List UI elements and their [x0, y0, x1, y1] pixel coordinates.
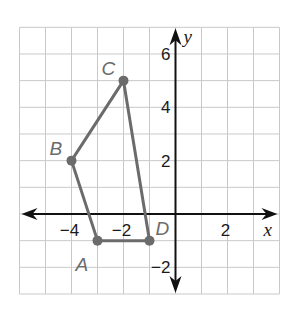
vertex-c-dot [119, 76, 129, 86]
coordinate-plane: x y −4−22642−2 ABCD [0, 0, 288, 313]
vertex-d-label: D [156, 218, 170, 239]
y-tick-label: 4 [161, 98, 170, 117]
x-tick-label: 2 [221, 221, 230, 240]
vertex-d-dot [145, 236, 155, 246]
vertex-b-dot [67, 156, 77, 166]
vertex-c-label: C [102, 58, 116, 79]
x-tick-label: −4 [60, 221, 79, 240]
grid [20, 27, 280, 294]
y-axis-label: y [182, 26, 193, 47]
vertex-a-label: A [75, 254, 89, 275]
y-tick-label: 2 [161, 152, 170, 171]
x-tick-label: −2 [112, 221, 131, 240]
vertex-a-dot [93, 236, 103, 246]
y-tick-label: −2 [151, 258, 170, 277]
y-tick-label: 6 [161, 45, 170, 64]
x-axis-label: x [263, 219, 273, 240]
vertex-b-label: B [50, 138, 63, 159]
